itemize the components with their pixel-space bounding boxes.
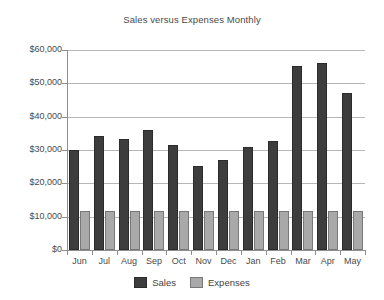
x-axis-tick (365, 250, 366, 255)
x-axis-tick (340, 250, 341, 255)
bar-sales-jun[interactable] (69, 150, 79, 250)
legend-label: Sales (152, 277, 176, 288)
x-axis-tick (191, 250, 192, 255)
bar-expenses-nov[interactable] (204, 211, 214, 250)
x-axis-tick-label: Jul (92, 256, 117, 266)
x-axis-tick (266, 250, 267, 255)
bar-expenses-apr[interactable] (328, 211, 338, 250)
bar-sales-jul[interactable] (94, 136, 104, 250)
bar-sales-sep[interactable] (143, 130, 153, 250)
bar-sales-aug[interactable] (119, 139, 129, 250)
month-bar-group (340, 50, 365, 250)
bar-expenses-dec[interactable] (229, 211, 239, 250)
month-bar-group (241, 50, 266, 250)
x-axis-tick (166, 250, 167, 255)
bar-sales-apr[interactable] (317, 63, 327, 250)
x-axis-tick-label: Dec (216, 256, 241, 266)
x-axis-tick (142, 250, 143, 255)
month-bar-group (117, 50, 142, 250)
bar-sales-feb[interactable] (268, 141, 278, 250)
x-axis-tick-label: Aug (117, 256, 142, 266)
x-axis-tick-label: May (340, 256, 365, 266)
month-bar-group (142, 50, 167, 250)
x-axis-tick-label: Mar (291, 256, 316, 266)
x-axis-tick (315, 250, 316, 255)
month-bar-group (67, 50, 92, 250)
bar-sales-mar[interactable] (292, 66, 302, 250)
month-bar-group (191, 50, 216, 250)
x-axis-tick (216, 250, 217, 255)
legend-swatch-expenses (190, 277, 203, 288)
legend-entry-expenses[interactable]: Expenses (190, 277, 250, 288)
month-bar-group (166, 50, 191, 250)
bar-expenses-oct[interactable] (179, 211, 189, 250)
y-axis-ticks (0, 50, 67, 250)
month-bar-group (315, 50, 340, 250)
legend-label: Expenses (208, 277, 250, 288)
bar-expenses-may[interactable] (353, 211, 363, 250)
bar-expenses-aug[interactable] (130, 211, 140, 250)
bar-sales-nov[interactable] (193, 166, 203, 250)
bar-expenses-jan[interactable] (254, 211, 264, 250)
bar-expenses-sep[interactable] (154, 211, 164, 250)
x-axis-tick-label: Apr (315, 256, 340, 266)
x-axis-tick-label: Feb (266, 256, 291, 266)
x-axis-tick-label: Sep (142, 256, 167, 266)
x-axis-tick-label: Nov (191, 256, 216, 266)
bar-sales-oct[interactable] (168, 145, 178, 250)
bar-expenses-jul[interactable] (105, 211, 115, 250)
x-axis-tick (67, 250, 68, 255)
bar-chart: Sales versus Expenses Monthly $0$10,000$… (0, 0, 384, 300)
chart-legend: SalesExpenses (0, 277, 384, 288)
month-bar-group (266, 50, 291, 250)
x-axis-tick-label: Oct (166, 256, 191, 266)
x-axis-tick (291, 250, 292, 255)
plot-area (67, 50, 365, 250)
bar-expenses-feb[interactable] (279, 211, 289, 250)
chart-title: Sales versus Expenses Monthly (0, 14, 384, 25)
legend-swatch-sales (134, 277, 147, 288)
x-axis-tick-label: Jun (67, 256, 92, 266)
month-bar-group (92, 50, 117, 250)
bar-sales-dec[interactable] (218, 160, 228, 250)
month-bar-group (291, 50, 316, 250)
y-axis-line (67, 50, 68, 251)
legend-entry-sales[interactable]: Sales (134, 277, 176, 288)
x-axis-tick-label: Jan (241, 256, 266, 266)
bar-expenses-mar[interactable] (303, 211, 313, 250)
bar-expenses-jun[interactable] (80, 211, 90, 250)
bar-sales-may[interactable] (342, 93, 352, 250)
bar-sales-jan[interactable] (243, 147, 253, 250)
x-axis-tick (117, 250, 118, 255)
x-axis-tick (241, 250, 242, 255)
x-axis-tick (92, 250, 93, 255)
month-bar-group (216, 50, 241, 250)
